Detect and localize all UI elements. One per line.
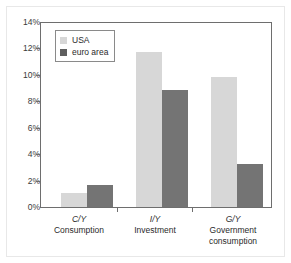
x-category-name-consumption: Consumption [40,225,118,236]
y-tick-label-10: 10% [6,71,40,80]
x-category-investment: I/Y Investment [118,214,192,236]
bar-euro-government[interactable] [237,164,263,207]
bar-group-investment [136,23,190,207]
legend-swatch-euro-area-icon [60,49,67,56]
y-tick-label-14: 14% [6,18,40,27]
bar-usa-investment[interactable] [136,52,162,207]
x-category-name-government: Government consumption [193,225,273,247]
bar-usa-government[interactable] [211,77,237,207]
legend-item-euro-area[interactable]: euro area [60,46,108,58]
legend-item-usa[interactable]: USA [60,34,108,46]
bar-euro-investment[interactable] [162,90,188,207]
bar-group-government [211,23,265,207]
y-tick-label-4: 4% [6,150,40,159]
legend-label-usa: USA [72,36,89,45]
legend-label-euro-area: euro area [72,48,108,57]
bar-chart: 14% 12% 10% 8% 6% 4% 2% 0% [0,0,291,263]
y-axis: 14% 12% 10% 8% 6% 4% 2% 0% [0,0,40,263]
y-tick-label-2: 2% [6,176,40,185]
y-tick-label-12: 12% [6,44,40,53]
x-category-ratio-iy: I/Y [118,214,192,225]
bar-usa-consumption[interactable] [61,193,87,208]
y-tick-label-8: 8% [6,97,40,106]
legend: USA euro area [55,30,115,62]
x-tick-separator-2 [192,208,193,212]
y-tick-label-6: 6% [6,123,40,132]
x-category-name-investment: Investment [118,225,192,236]
x-category-ratio-gy: G/Y [193,214,273,225]
x-category-government: G/Y Government consumption [193,214,273,247]
y-tick-label-0: 0% [6,203,40,212]
legend-swatch-usa-icon [60,37,67,44]
bar-euro-consumption[interactable] [87,185,113,207]
x-tick-separator-1 [117,208,118,212]
x-category-consumption: C/Y Consumption [40,214,118,236]
x-category-ratio-cy: C/Y [40,214,118,225]
